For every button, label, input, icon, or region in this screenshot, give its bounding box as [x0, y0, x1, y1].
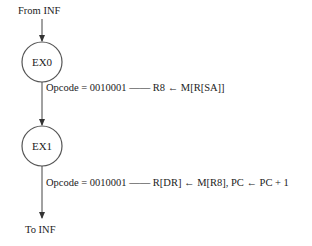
ex0-transition-text: Opcode = 0010001 —— R8 ← M[R[SA]] — [46, 83, 225, 94]
state-diagram-lines — [0, 0, 312, 246]
ex0-dash: —— — [129, 82, 150, 93]
ex0-condition: Opcode = 0010001 — [46, 82, 127, 93]
entry-label: From INF — [18, 6, 60, 17]
ex1-dash: —— — [129, 177, 150, 188]
ex1-action: R[DR] ← M[R8], PC ← PC + 1 — [153, 177, 289, 188]
exit-label: To INF — [25, 225, 55, 236]
ex0-action: R8 ← M[R[SA]] — [153, 82, 225, 93]
ex1-transition-text: Opcode = 0010001 —— R[DR] ← M[R8], PC ← … — [46, 178, 289, 189]
state-ex0-label: EX0 — [22, 57, 62, 68]
state-ex1-label: EX1 — [22, 141, 62, 152]
ex1-condition: Opcode = 0010001 — [46, 177, 127, 188]
